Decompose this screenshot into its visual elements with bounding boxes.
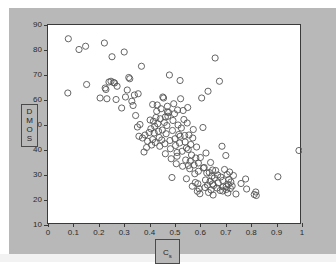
x-axis-tick — [226, 223, 227, 227]
scatter-point — [173, 161, 179, 167]
scatter-point — [243, 176, 249, 182]
scatter-point — [230, 172, 236, 178]
scatter-point — [200, 124, 206, 130]
x-axis-tick-label: 0.3 — [119, 229, 130, 237]
y-axis-tick — [44, 25, 48, 26]
scatter-point — [131, 92, 137, 98]
scatter-point — [184, 120, 190, 126]
scatter-point — [163, 131, 169, 137]
scatter-point — [122, 94, 128, 100]
scatter-point — [207, 159, 213, 165]
scatter-point — [180, 163, 186, 169]
y-axis-label-dmos: D M O S — [21, 104, 38, 147]
scatter-point — [275, 174, 281, 180]
scatter-point — [223, 152, 229, 158]
scatter-point — [84, 81, 90, 87]
scatter-point — [76, 46, 82, 52]
x-axis-tick-label: 0.7 — [220, 229, 231, 237]
scatter-point — [181, 116, 187, 122]
scatter-point — [133, 112, 139, 118]
scatter-point — [227, 169, 233, 175]
scatter-point — [113, 96, 119, 102]
scatter-point — [199, 95, 205, 101]
y-axis-label-letter-m: M — [22, 116, 37, 125]
scatter-point — [296, 147, 302, 153]
x-axis-tick-label: 0 — [46, 229, 50, 237]
scatter-point — [119, 105, 125, 111]
x-axis-tick-label: 0.4 — [144, 229, 155, 237]
scatter-point — [170, 117, 176, 123]
x-axis-tick-label: 0.5 — [169, 229, 180, 237]
scatter-point — [104, 96, 110, 102]
x-axis-tick — [124, 223, 125, 227]
y-axis-label-letter-d: D — [22, 107, 37, 116]
scatter-point — [183, 176, 189, 182]
x-axis-tick — [150, 223, 151, 227]
scatter-point — [101, 40, 107, 46]
x-axis-tick — [302, 223, 303, 227]
scatter-point — [169, 174, 175, 180]
scatter-point — [177, 133, 183, 139]
y-axis-tick-label: 40 — [33, 146, 42, 154]
scatter-point — [65, 90, 71, 96]
scatter-point — [185, 104, 191, 110]
scatter-point — [205, 88, 211, 94]
y-axis-tick-label: 70 — [33, 71, 42, 79]
scatter-point — [130, 102, 136, 108]
x-axis-tick — [200, 223, 201, 227]
x-axis-tick — [277, 223, 278, 227]
scatter-point — [219, 143, 225, 149]
x-axis-label-subscript: s — [169, 253, 172, 259]
y-axis-tick — [44, 175, 48, 176]
x-axis-tick-label: 1 — [300, 229, 304, 237]
x-axis-tick — [175, 223, 176, 227]
scatter-point — [168, 156, 174, 162]
x-axis-tick-label: 0.2 — [93, 229, 104, 237]
scatter-point — [129, 98, 135, 104]
scatter-point — [97, 95, 103, 101]
scatter-point — [244, 186, 250, 192]
scatter-point — [150, 101, 156, 107]
scatter-point — [203, 150, 209, 156]
scatter-point — [124, 87, 130, 93]
y-axis-tick-label: 30 — [33, 171, 42, 179]
y-axis-tick-label: 60 — [33, 96, 42, 104]
scatter-point — [136, 133, 142, 139]
scatter-points-layer — [48, 25, 302, 225]
x-axis-label-text: Cs — [163, 248, 172, 257]
scatter-point — [65, 36, 71, 42]
scatter-point — [190, 126, 196, 132]
y-axis-tick — [44, 50, 48, 51]
scatter-point — [82, 43, 88, 49]
scatter-point — [166, 72, 172, 78]
scatter-point — [169, 127, 175, 133]
x-axis-label-cs: Cs — [155, 239, 180, 264]
x-axis-tick-label: 0.6 — [195, 229, 206, 237]
scatter-plot-axes: 10203040506070809000.10.20.30.40.50.60.7… — [47, 24, 301, 224]
scatter-point — [121, 49, 127, 55]
x-axis-tick — [48, 223, 49, 227]
scatter-point — [183, 145, 189, 151]
x-axis-tick — [251, 223, 252, 227]
y-axis-tick-label: 90 — [33, 21, 42, 29]
scatter-point — [212, 55, 218, 61]
scatter-point — [233, 191, 239, 197]
y-axis-tick-label: 10 — [33, 221, 42, 229]
scatter-point — [193, 144, 199, 150]
scatter-point — [138, 63, 144, 69]
scatter-point — [216, 78, 222, 84]
scatter-point — [164, 103, 170, 109]
x-axis-tick-label: 0.9 — [271, 229, 282, 237]
scatter-point — [188, 152, 194, 158]
scatter-point — [109, 54, 115, 60]
y-axis-tick — [44, 150, 48, 151]
x-axis-tick — [99, 223, 100, 227]
y-axis-tick-label: 20 — [33, 196, 42, 204]
scatter-point — [162, 151, 168, 157]
y-axis-tick — [44, 75, 48, 76]
x-axis-tick-label: 0.1 — [68, 229, 79, 237]
x-axis-tick — [73, 223, 74, 227]
scatter-point — [177, 77, 183, 83]
y-axis-label-letter-o: O — [22, 125, 37, 134]
